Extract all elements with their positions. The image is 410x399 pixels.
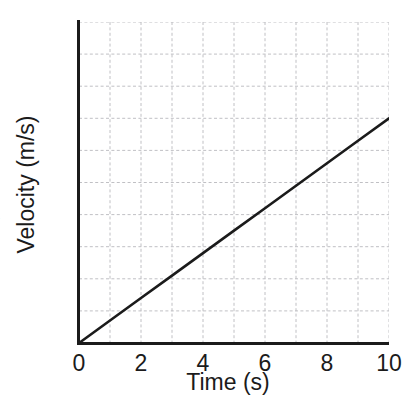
x-axis-spine	[77, 342, 389, 345]
data-line-velocity	[79, 22, 389, 343]
y-axis-title: Velocity (m/s)	[14, 85, 39, 285]
velocity-time-chart: 10 8 6 4 2 0 0 2 4 6 8 10 Time (s) Veloc…	[0, 0, 410, 399]
x-axis-title: Time (s)	[0, 370, 410, 395]
y-axis-spine	[77, 20, 80, 345]
plot-area	[79, 22, 389, 343]
